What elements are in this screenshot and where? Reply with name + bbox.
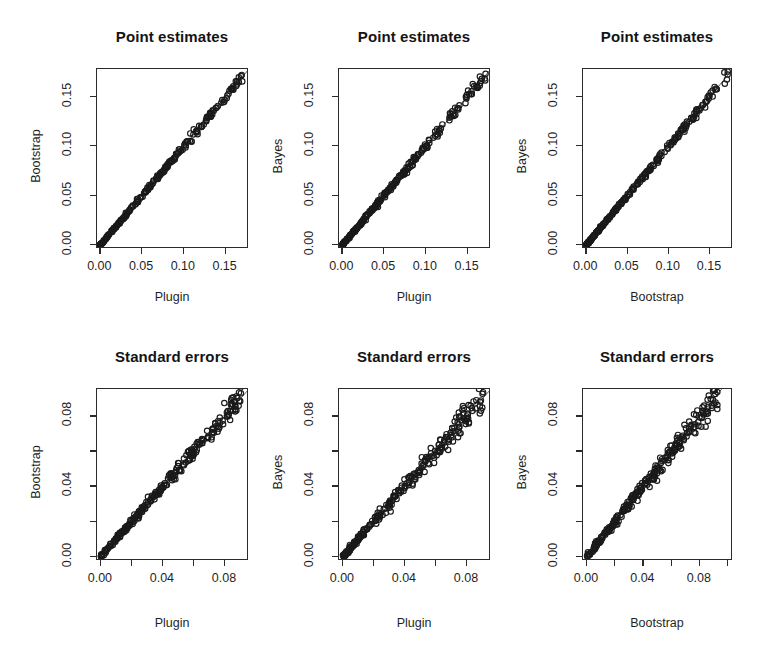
y-axis-tick (576, 450, 582, 451)
x-axis-tick (586, 560, 587, 566)
y-axis-tick (576, 485, 582, 486)
x-axis-tick-label: 0.00 (574, 571, 598, 585)
x-axis-title: Bootstrap (582, 616, 732, 630)
x-axis-tick (727, 560, 728, 566)
y-axis-title: Bayes (515, 442, 529, 502)
x-axis-tick-label: 0.04 (630, 571, 654, 585)
scatterplot-matrix-figure: Point estimates0.000.050.100.150.000.050… (0, 0, 774, 668)
panel-title: Standard errors (542, 348, 772, 365)
x-axis-tick (699, 560, 700, 566)
y-axis-tick-label: 0.04 (546, 467, 560, 501)
x-axis-tick (614, 560, 615, 566)
y-axis-tick-label: 0.00 (546, 538, 560, 572)
plot-area (582, 388, 732, 560)
x-axis-tick (671, 560, 672, 566)
x-axis-tick (642, 560, 643, 566)
data-points (583, 389, 732, 560)
y-axis-tick-label: 0.08 (546, 397, 560, 431)
scatter-panel: Standard errors0.000.040.080.000.040.08B… (0, 0, 774, 668)
x-axis-tick-label: 0.08 (687, 571, 711, 585)
y-axis-tick (576, 556, 582, 557)
y-axis-tick (576, 521, 582, 522)
y-axis-tick (576, 415, 582, 416)
